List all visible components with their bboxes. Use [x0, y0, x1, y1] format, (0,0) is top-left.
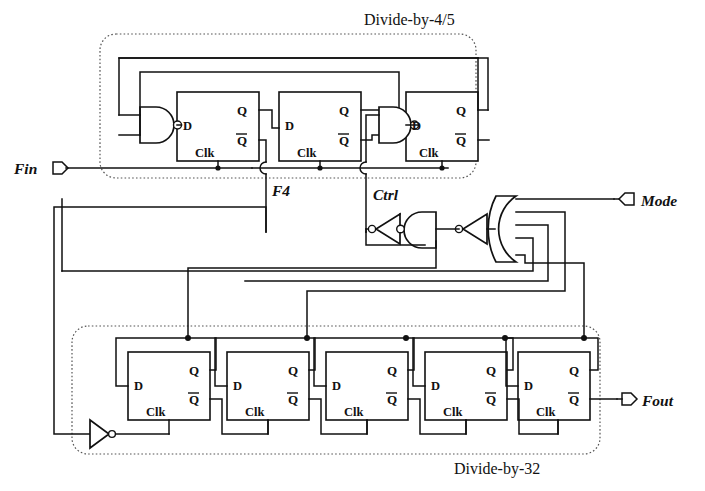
ff-bot-3-q-label: Q: [387, 363, 397, 378]
ff-top-3-d-label: D: [412, 119, 421, 133]
inverter-clk-bubble: [109, 431, 116, 438]
ff-bot-4-q-label: Q: [486, 363, 496, 378]
wire-or-in-4: [62, 199, 533, 271]
divide-by-32-label: Divide-by-32: [454, 460, 540, 478]
ff-top-3-q-label: Q: [456, 103, 466, 118]
ff-bot-3-qbar-label: Q: [387, 392, 397, 407]
ff-bot-1-q-label: Q: [189, 363, 199, 378]
ff-bot-5-qbar-label: Q: [569, 392, 579, 407]
ff-bot-2-clk-label: Clk: [245, 405, 265, 419]
ff-bot-1-qbar-label: Q: [189, 392, 199, 407]
port-arrow-fout: [622, 393, 637, 405]
ff-top-2-clk-label: Clk: [297, 146, 317, 160]
ff-bot-2-d-label: D: [233, 379, 242, 393]
junction-ff3-clk: [439, 165, 444, 170]
ff-top-1-qbar-label: Q: [237, 133, 247, 148]
ff-top-1-q-label: Q: [237, 103, 247, 118]
ff-bot-5-d-label: D: [524, 379, 533, 393]
inverter-clk: [90, 420, 109, 448]
ff-bot-2-q-label: Q: [288, 363, 298, 378]
signal-label-ctrl: Ctrl: [373, 186, 399, 203]
junction-ff2-clk: [317, 165, 322, 170]
wire-ff1-qbar-to-f4: [259, 140, 266, 162]
signal-label-f4: F4: [271, 182, 290, 199]
ff-top-2-q-label: Q: [339, 103, 349, 118]
ff-top-2-d-label: D: [285, 119, 294, 133]
junction-b5-q: [581, 335, 587, 341]
junction-b3-q: [403, 335, 409, 341]
wire-ff2qbar-to-nand2: [361, 135, 379, 140]
nand-gate-3: [404, 212, 436, 248]
ff-bot-4-clk-label: Clk: [443, 405, 463, 419]
junction-ff1-clk: [215, 165, 220, 170]
wire-ff1q-to-ff2d: [259, 110, 279, 128]
circuit-svg: Q Q D Clk Q Q D Clk Q Q D Clk Q Q D Clk …: [0, 0, 705, 491]
nand-gate-3-bubble: [397, 225, 405, 233]
inverter-b: [463, 214, 487, 244]
port-label-fin: Fin: [13, 160, 37, 177]
ff-top-1-d-label: D: [183, 119, 192, 133]
ff-bot-3-d-label: D: [332, 379, 341, 393]
inverter-a-bubble: [368, 225, 375, 232]
junction-b1-q: [185, 335, 191, 341]
wire-nand3-in-lower: [188, 241, 436, 338]
ff-top-3-qbar-label: Q: [456, 133, 466, 148]
ff-bot-1-d-label: D: [134, 379, 143, 393]
ff-bot-4-qbar-label: Q: [486, 392, 496, 407]
ff-bot-4-d-label: D: [431, 379, 440, 393]
port-label-fout: Fout: [641, 392, 674, 409]
ff-top-2-qbar-label: Q: [339, 133, 349, 148]
ff-bot-5-q-label: Q: [569, 363, 579, 378]
divide-by-4-5-label: Divide-by-4/5: [364, 11, 455, 29]
junction-b2-q: [304, 335, 310, 341]
ff-top-1-clk-label: Clk: [195, 146, 215, 160]
ff-top-3-clk-label: Clk: [419, 146, 439, 160]
port-arrow-mode: [619, 193, 634, 205]
nand-gate-1: [140, 107, 174, 143]
port-label-mode: Mode: [640, 192, 677, 209]
ff-bot-1-clk-label: Clk: [146, 405, 166, 419]
ff-bot-5-clk-label: Clk: [536, 405, 556, 419]
ff-bot-2-qbar-label: Q: [288, 392, 298, 407]
schematic-canvas: Q Q D Clk Q Q D Clk Q Q D Clk Q Q D Clk …: [0, 0, 705, 491]
ff-bot-3-clk-label: Clk: [344, 405, 364, 419]
